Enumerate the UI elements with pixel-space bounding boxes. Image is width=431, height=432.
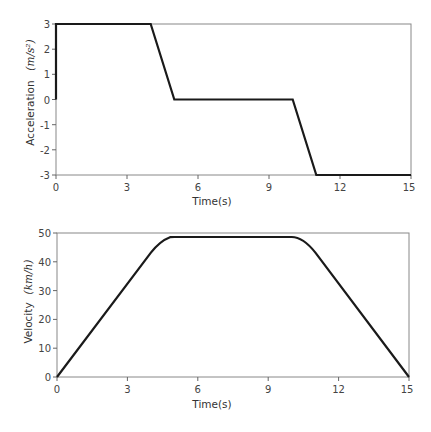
acceleration-y-tick-label: -2: [40, 145, 50, 156]
velocity-y-tick-label: 20: [38, 314, 51, 325]
acceleration-x-axis-title: Time(s): [191, 195, 231, 207]
velocity-chart: 50 40 30 20 10 0 0 3 6 9 12 15 Time(s) V: [22, 228, 413, 410]
velocity-y-tick-label: 0: [45, 372, 51, 383]
velocity-x-tick-label: 0: [54, 384, 60, 395]
velocity-y-tick-label: 30: [38, 286, 51, 297]
velocity-y-tick-label: 50: [38, 228, 51, 239]
acceleration-y-tick-label: 2: [44, 44, 50, 55]
acceleration-x-tick-label: 12: [334, 182, 347, 193]
acceleration-y-tick-label: 3: [44, 19, 50, 30]
velocity-y-axis-unit: (km/h): [22, 260, 34, 295]
acceleration-chart: 3 2 1 0 -1 -2 -3 0 3 6 9 12 15 Time(s): [24, 19, 415, 207]
acceleration-x-tick-label: 9: [266, 182, 272, 193]
velocity-y-tick-label: 10: [38, 343, 51, 354]
velocity-x-tick-label: 15: [401, 384, 414, 395]
velocity-x-axis-title: Time(s): [191, 398, 231, 410]
acceleration-x-tick-label: 6: [195, 182, 201, 193]
acceleration-y-tick-label: 1: [44, 69, 50, 80]
acceleration-y-axis-unit: (m/s²): [24, 39, 36, 70]
velocity-x-tick-label: 12: [332, 384, 345, 395]
velocity-y-ticks: [53, 233, 57, 377]
velocity-x-tick-label: 6: [195, 384, 201, 395]
acceleration-y-tick-label: -1: [40, 120, 50, 131]
velocity-y-axis-title: Velocity: [22, 302, 34, 343]
acceleration-x-tick-label: 3: [124, 182, 130, 193]
acceleration-y-tick-label: -3: [40, 170, 50, 181]
velocity-x-tick-label: 3: [124, 384, 130, 395]
acceleration-x-tick-label: 0: [53, 182, 59, 193]
acceleration-y-tick-label: 0: [44, 95, 50, 106]
figure: 3 2 1 0 -1 -2 -3 0 3 6 9 12 15 Time(s): [0, 0, 431, 432]
velocity-x-tick-label: 9: [265, 384, 271, 395]
velocity-x-ticks: [57, 377, 409, 381]
acceleration-y-axis-title: Acceleration: [24, 80, 36, 145]
acceleration-x-tick-label: 15: [403, 182, 416, 193]
velocity-y-tick-label: 40: [38, 257, 51, 268]
